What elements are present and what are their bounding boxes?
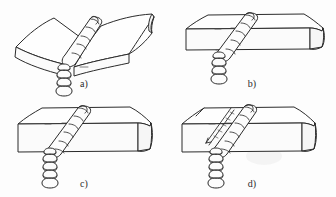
panel-a: a) (0, 0, 168, 98)
panel-d: d) (168, 98, 336, 197)
panel-b: b) (168, 0, 336, 98)
panel-b-caption: b) (168, 78, 336, 89)
plate-side-face (302, 123, 316, 151)
plate-side-face (138, 123, 152, 151)
panel-c-caption: c) (0, 178, 168, 189)
welding-figure: a) (0, 0, 336, 197)
panel-c: c) (0, 98, 168, 197)
panel-a-caption: a) (0, 78, 168, 89)
panel-d-caption: d) (168, 178, 336, 189)
plate-side-face (310, 28, 324, 49)
